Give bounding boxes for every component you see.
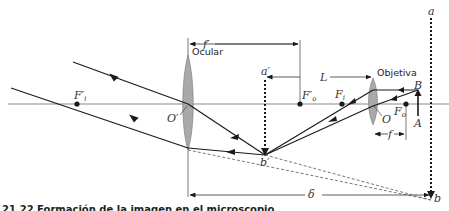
A-label: A bbox=[414, 118, 422, 129]
ray-arrow-ocular-2 bbox=[226, 149, 235, 155]
objective-lens bbox=[369, 78, 378, 125]
f-dimension-label: f bbox=[388, 129, 392, 140]
f-o-label: Fo bbox=[394, 106, 406, 119]
ray-b-prime-to-ocular-low bbox=[188, 148, 265, 155]
ray-arrow-objective-1 bbox=[398, 87, 404, 93]
ray-b-prime-to-ocular-center bbox=[188, 104, 265, 155]
ray-arrow-objective-2 bbox=[390, 95, 397, 101]
f-prime-dimension-label: f′ bbox=[203, 39, 210, 50]
f-prime-i-label: F′i bbox=[74, 90, 86, 103]
ray-objective-to-b-prime-2 bbox=[265, 106, 373, 155]
dashed-ray-2 bbox=[265, 155, 431, 200]
L-dimension-label: L bbox=[320, 72, 327, 83]
ray-arrow-exit-lower bbox=[127, 115, 138, 124]
figure-caption: 21.22 Formación de la imagen en el micro… bbox=[2, 204, 274, 211]
f-prime-o-label: F′o bbox=[302, 90, 316, 103]
b-label: b bbox=[434, 193, 441, 204]
ray-exit-lower bbox=[11, 88, 188, 148]
microscope-ray-diagram bbox=[0, 0, 449, 211]
a-prime-label: a′ bbox=[261, 66, 270, 77]
a-label: a bbox=[428, 6, 435, 17]
delta-dimension-label: δ bbox=[308, 189, 315, 200]
f-i-label: Fi bbox=[335, 89, 345, 102]
o-label: O bbox=[382, 114, 391, 125]
ray-objective-to-b-prime-1 bbox=[265, 90, 373, 155]
o-prime-label: O′ bbox=[167, 113, 179, 124]
f-i-point bbox=[339, 101, 344, 106]
objetiva-label: Objetiva bbox=[377, 68, 417, 78]
b-prime-label: b′ bbox=[260, 157, 270, 168]
ray-exit-upper bbox=[73, 62, 188, 104]
B-label: B bbox=[414, 80, 422, 91]
